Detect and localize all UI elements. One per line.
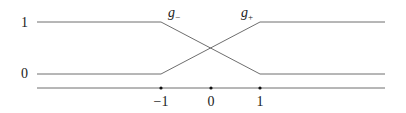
tick-dot-1 <box>258 86 261 89</box>
diagram: 1 0 g− g+ −1 0 1 <box>0 0 406 113</box>
y-label-1: 1 <box>21 15 28 30</box>
tick-label-0: 0 <box>208 94 215 109</box>
tick-dot-minus-1 <box>159 86 162 89</box>
tick-label-1: 1 <box>257 94 264 109</box>
tick-dot-0 <box>209 86 212 89</box>
y-label-0: 0 <box>21 66 28 81</box>
g-plus-curve <box>37 22 385 74</box>
g-minus-label: g− <box>168 5 180 22</box>
tick-label-minus-1: −1 <box>154 94 169 109</box>
g-plus-label: g+ <box>241 5 253 22</box>
